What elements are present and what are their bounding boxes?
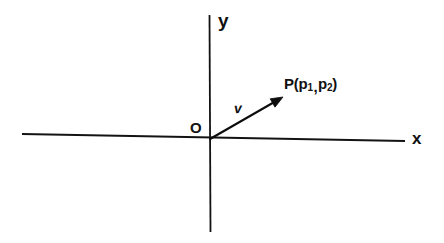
y-axis-line <box>210 15 211 232</box>
y-axis-label: y <box>218 11 229 30</box>
vector-diagram-svg <box>0 0 444 243</box>
point-close-paren: ) <box>332 75 337 92</box>
vector-v-shaft <box>210 102 275 139</box>
x-axis-label: x <box>412 130 421 147</box>
point-component-2-base: p <box>318 75 327 92</box>
diagram-canvas: y x O v P(p1,p2) <box>0 0 444 243</box>
point-name: P <box>284 75 294 92</box>
point-component-1-base: p <box>299 75 308 92</box>
vector-v-arrowhead <box>270 97 283 107</box>
origin-label: O <box>190 120 202 135</box>
vector-label: v <box>234 101 243 115</box>
point-label: P(p1,p2) <box>284 76 337 94</box>
